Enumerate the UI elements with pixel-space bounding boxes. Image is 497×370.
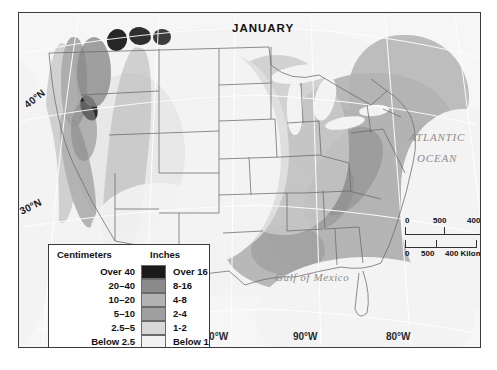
legend-in-label: 8-16 bbox=[173, 280, 192, 291]
legend-swatch bbox=[141, 335, 166, 348]
legend-swatch bbox=[141, 265, 166, 279]
legend-row: 10–20 4-8 bbox=[49, 293, 209, 307]
coast-florida bbox=[355, 271, 368, 316]
legend-in-label: 4-8 bbox=[173, 294, 187, 305]
graticule-lat-40 bbox=[21, 95, 477, 125]
lon-label-90w: 90°W bbox=[293, 331, 318, 342]
border-great-lakes bbox=[271, 65, 387, 105]
legend-swatch bbox=[141, 279, 166, 293]
scale-km-tick-end: 400 Kilometers bbox=[445, 249, 481, 258]
legend-cm-label: Over 40 bbox=[49, 266, 135, 277]
scale-miles-numbers: 0 500 400 Miles bbox=[405, 216, 481, 227]
legend-header: Centimeters Inches bbox=[49, 245, 209, 265]
legend-swatch bbox=[141, 293, 166, 307]
atlantic-ocean-label-line2: OCEAN bbox=[417, 152, 457, 164]
scale-miles-tick-0: 0 bbox=[405, 216, 409, 225]
legend-in-label: Over 16 bbox=[173, 266, 208, 277]
lon-label-80w: 80°W bbox=[386, 331, 411, 342]
legend-row: Over 40 Over 16 bbox=[49, 265, 209, 279]
coast-pacific bbox=[49, 53, 115, 241]
scale-km-midtick bbox=[436, 240, 437, 247]
scale-miles-tick-500: 500 bbox=[433, 216, 446, 225]
scale-miles-midtick bbox=[444, 227, 445, 234]
scale-bar: 0 500 400 Miles 0 500 400 Kilometers bbox=[405, 216, 481, 260]
scale-miles-bar bbox=[405, 227, 481, 235]
legend-in-label: Below 1 bbox=[173, 336, 209, 347]
legend-cm-label: 20–40 bbox=[49, 280, 135, 291]
graticule-lon-80 bbox=[385, 15, 411, 345]
gulf-of-mexico-label: Gulf of Mexico bbox=[275, 271, 349, 283]
legend-row: 5–10 2-4 bbox=[49, 307, 209, 321]
legend-in-label: 2-4 bbox=[173, 308, 187, 319]
legend-swatch bbox=[141, 307, 166, 321]
legend-row: 2.5–5 1-2 bbox=[49, 321, 209, 335]
scale-miles-tick-end: 400 Miles bbox=[467, 216, 481, 225]
scale-km-bar bbox=[405, 240, 477, 248]
scale-km-tick-0: 0 bbox=[405, 249, 409, 258]
atlantic-ocean-label-line1: ATLANTIC bbox=[409, 131, 465, 143]
map-legend: Centimeters Inches Over 40 Over 16 20–40… bbox=[48, 244, 210, 348]
border-us-canada-west bbox=[49, 47, 271, 65]
graticule-lon-90 bbox=[311, 15, 321, 345]
precipitation-map-figure: 40°N 30°N 100°W 90°W 80°W ATLANTIC OCEAN… bbox=[0, 0, 497, 370]
scale-km-tick-500: 500 bbox=[421, 249, 434, 258]
graticule-lon-70 bbox=[455, 19, 480, 343]
legend-cm-label: Below 2.5 bbox=[49, 336, 135, 347]
graticule-lon-100 bbox=[231, 15, 235, 345]
legend-swatch bbox=[141, 321, 166, 335]
legend-in-label: 1-2 bbox=[173, 322, 187, 333]
scale-km-numbers: 0 500 400 Kilometers bbox=[405, 249, 481, 260]
legend-row: Below 2.5 Below 1 bbox=[49, 335, 209, 348]
legend-cm-label: 5–10 bbox=[49, 308, 135, 319]
legend-cm-label: 2.5–5 bbox=[49, 322, 135, 333]
map-frame: 40°N 30°N 100°W 90°W 80°W ATLANTIC OCEAN… bbox=[18, 12, 481, 348]
legend-header-centimeters: Centimeters bbox=[57, 249, 112, 260]
map-title: JANUARY bbox=[232, 22, 294, 34]
legend-header-inches: Inches bbox=[150, 249, 180, 260]
legend-row: 20–40 8-16 bbox=[49, 279, 209, 293]
legend-cm-label: 10–20 bbox=[49, 294, 135, 305]
